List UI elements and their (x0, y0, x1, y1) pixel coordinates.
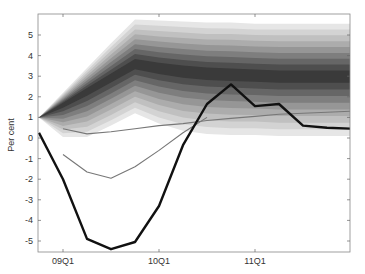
y-tick-label: -2 (25, 174, 33, 184)
y-tick-label: -1 (25, 154, 33, 164)
y-tick-label: 5 (28, 30, 33, 40)
y-tick-label: -4 (25, 215, 33, 225)
x-tick-label: 10Q1 (148, 256, 170, 266)
y-tick-label: 1 (28, 112, 33, 122)
y-axis-label: Per cent (6, 118, 16, 152)
fan-bands (39, 20, 351, 138)
y-tick-label: 3 (28, 71, 33, 81)
y-tick-label: -3 (25, 195, 33, 205)
y-tick-label: 4 (28, 51, 33, 61)
fan-chart: 543210-1-2-3-4-5 09Q110Q111Q1 Per cent (0, 0, 365, 274)
y-tick-label: -5 (25, 236, 33, 246)
x-tick-label: 09Q1 (52, 256, 74, 266)
y-tick-label: 0 (28, 133, 33, 143)
x-tick-label: 11Q1 (244, 256, 265, 266)
y-tick-label: 2 (28, 92, 33, 102)
